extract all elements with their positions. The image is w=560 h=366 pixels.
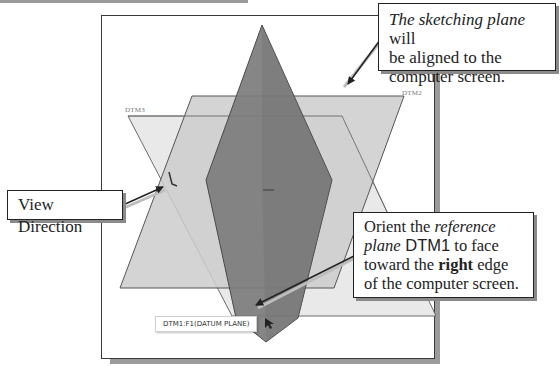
callout-orient-reference: Orient the reference plane DTM1 to face … [353,212,534,298]
text: Orient the [364,217,435,236]
callout-line-2: be aligned to the [389,48,555,67]
callout-line-1: Orient the reference [364,217,533,236]
datum-plane-tooltip: DTM1:F1(DATUM PLANE) [155,316,257,332]
plane-label-dtm3: DTM3 [125,106,145,114]
callout-line-3: computer screen. [389,67,555,86]
text: will [389,29,415,48]
text: toward the [364,255,438,274]
callout-line-3: toward the right edge [364,255,533,274]
callout-view-direction: View Direction [7,190,123,220]
italic-text: plane [364,236,401,255]
italic-text: The sketching plane [389,10,525,29]
callout-line-1: The sketching plane will [389,10,555,48]
italic-text: reference [435,217,496,236]
callout-text: View Direction [18,195,82,236]
plane-label-dtm2: DTM2 [402,89,422,97]
callout-line-2: plane DTM1 to face [364,236,533,255]
plane-name-text: DTM1 [401,236,451,254]
text: edge [473,255,508,274]
bold-text: right [438,255,473,274]
callout-line-4: of the computer screen. [364,274,533,293]
text: to face [450,236,499,255]
top-divider-rule [0,0,248,3]
callout-sketching-plane: The sketching plane will be aligned to t… [378,3,556,71]
